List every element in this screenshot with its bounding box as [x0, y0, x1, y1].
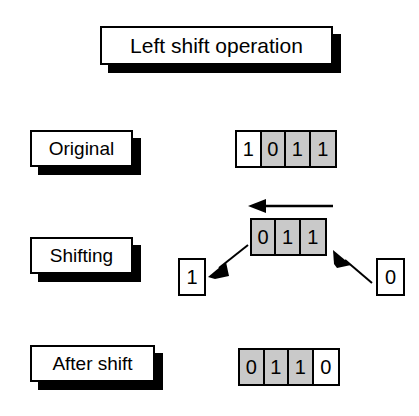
row-label-shifting-box: Shifting: [30, 237, 133, 274]
diagram-title-box: Left shift operation: [100, 26, 333, 65]
bit-cell: 1: [286, 132, 311, 166]
label-original-face: Original: [30, 130, 133, 167]
bit-cell: 1: [265, 350, 290, 384]
row-label-original-text: Original: [49, 139, 114, 158]
row-label-shifting-text: Shifting: [50, 246, 113, 265]
bit-cell: 0: [314, 350, 338, 384]
label-shifting-face: Shifting: [30, 237, 133, 274]
bit-cell: 1: [289, 350, 314, 384]
bit-cell: 1: [301, 220, 325, 254]
bit-group-shifting: 0 1 1: [250, 218, 327, 256]
label-after-shift-face: After shift: [30, 345, 155, 382]
row-label-original-box: Original: [30, 130, 133, 167]
bit-group-original: 1 0 1 1: [235, 130, 337, 168]
bit-cell: 0: [262, 132, 287, 166]
shifted-in-bit-box: 0: [376, 258, 405, 296]
left-shift-diagram: Left shift operation Original 1 0 1 1 Sh…: [0, 0, 419, 416]
shifted-out-bit-box: 1: [178, 258, 206, 296]
row-label-after-shift-box: After shift: [30, 345, 155, 382]
title-box-face: Left shift operation: [100, 26, 333, 65]
diagram-title-text: Left shift operation: [130, 35, 303, 56]
shift-out-arrow-icon: [208, 245, 248, 279]
bit-cell: 1: [311, 132, 335, 166]
shift-in-arrow-icon: [333, 250, 372, 283]
bit-cell: 1: [276, 220, 300, 254]
row-label-after-shift-text: After shift: [52, 354, 132, 373]
bit-cell: 1: [237, 132, 262, 166]
bit-group-after-shift: 0 1 1 0: [238, 348, 340, 386]
shift-direction-arrow-icon: [248, 199, 333, 213]
bit-cell: 0: [252, 220, 276, 254]
bit-cell: 0: [240, 350, 265, 384]
